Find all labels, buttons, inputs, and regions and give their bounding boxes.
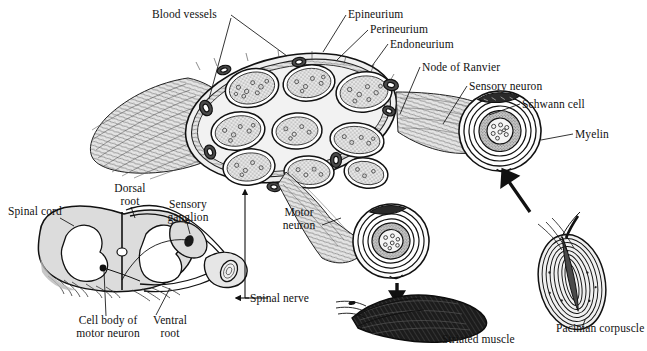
nerve-anatomy-illustration <box>0 0 647 351</box>
label-spinal-cord: Spinal cord <box>8 205 62 218</box>
label-pacinian-corpuscle: Pacinian corpuscle <box>556 322 644 335</box>
label-schwann-cell: Schwann cell <box>522 98 585 111</box>
label-striated-muscle: Striated muscle <box>442 333 515 346</box>
label-motor-neuron: Motor neuron <box>272 206 326 231</box>
label-ventral-root: Ventral root <box>146 314 194 339</box>
label-cell-body-of-motor-neuron: Cell body of motor neuron <box>64 314 152 339</box>
fascicle-group <box>208 62 394 192</box>
label-epineurium: Epineurium <box>348 8 403 21</box>
label-node-of-ranvier: Node of Ranvier <box>422 61 500 74</box>
label-myelin: Myelin <box>575 128 609 141</box>
myelinated-axon-cross-section-motor <box>349 200 432 283</box>
label-endoneurium: Endoneurium <box>390 38 454 51</box>
label-sensory-ganglion: Sensory ganglion <box>160 198 216 223</box>
motor-neuron-axon <box>278 172 433 302</box>
label-spinal-nerve: Spinal nerve <box>250 292 309 305</box>
pacinian-corpuscle <box>502 170 614 336</box>
label-blood-vessels: Blood vessels <box>152 8 217 21</box>
label-perineurium: Perineurium <box>370 23 428 36</box>
nerve-trunk <box>90 35 408 201</box>
label-sensory-neuron: Sensory neuron <box>469 80 542 93</box>
figure-canvas: Blood vessels Epineurium Perineurium End… <box>0 0 647 351</box>
label-dorsal-root: Dorsal root <box>104 182 156 207</box>
